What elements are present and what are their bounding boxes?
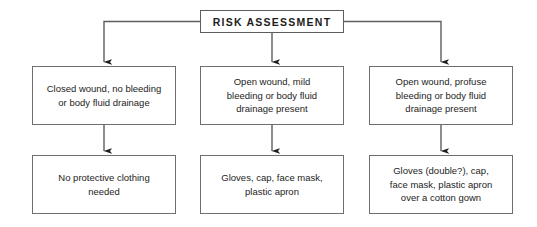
node-action-right-label: Gloves (double?), cap, face mask, plasti… [385, 164, 497, 205]
node-risk-assessment-label: RISK ASSESSMENT [213, 16, 332, 28]
node-action-left-label: No protective clothing needed [53, 171, 154, 198]
node-condition-right: Open wound, profuse bleeding or body flu… [369, 66, 513, 125]
node-condition-left-label: Closed wound, no bleeding or body fluid … [42, 82, 167, 109]
node-condition-center: Open wound, mild bleeding or body fluid … [200, 66, 344, 125]
risk-assessment-flowchart: RISK ASSESSMENT Closed wound, no bleedin… [0, 0, 537, 227]
node-action-right: Gloves (double?), cap, face mask, plasti… [369, 155, 513, 214]
node-action-center: Gloves, cap, face mask, plastic apron [200, 155, 344, 214]
node-action-center-label: Gloves, cap, face mask, plastic apron [216, 171, 327, 198]
node-action-left: No protective clothing needed [32, 155, 176, 214]
connector-root-to-left [104, 22, 200, 63]
node-condition-right-label: Open wound, profuse bleeding or body flu… [391, 75, 492, 116]
node-condition-center-label: Open wound, mild bleeding or body fluid … [222, 75, 322, 116]
connector-root-to-right [344, 22, 441, 63]
node-risk-assessment: RISK ASSESSMENT [200, 10, 344, 33]
node-condition-left: Closed wound, no bleeding or body fluid … [32, 66, 176, 125]
